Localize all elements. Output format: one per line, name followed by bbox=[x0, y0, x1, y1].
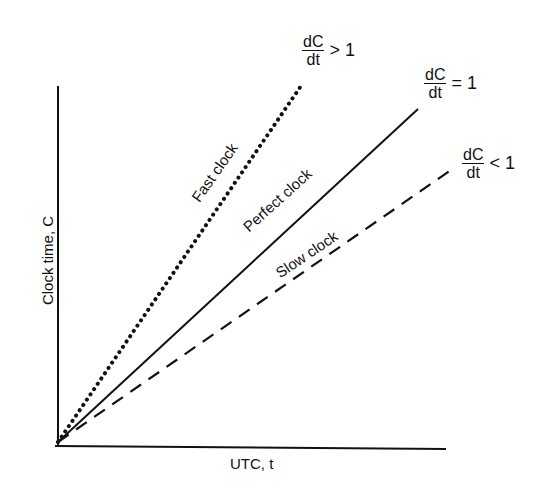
slow-slope-annotation: dCdt < 1 bbox=[462, 146, 515, 181]
perfect-slope-rel: = 1 bbox=[451, 73, 477, 94]
perfect-slope-annotation: dCdt = 1 bbox=[424, 66, 477, 101]
fast-clock-line bbox=[58, 83, 303, 442]
perfect-slope-num: dC bbox=[424, 66, 446, 84]
fast-slope-rel: > 1 bbox=[329, 40, 355, 61]
fast-slope-den: dt bbox=[307, 51, 320, 68]
x-axis bbox=[55, 446, 446, 449]
fast-slope-num: dC bbox=[302, 33, 324, 51]
y-axis-label: Clock time, C bbox=[39, 196, 56, 326]
slow-slope-num: dC bbox=[462, 146, 484, 164]
x-axis-label: UTC, t bbox=[230, 455, 273, 472]
slow-slope-rel: < 1 bbox=[489, 153, 515, 174]
perfect-slope-den: dt bbox=[429, 84, 442, 101]
slow-slope-den: dt bbox=[467, 164, 480, 181]
fast-slope-annotation: dCdt > 1 bbox=[302, 33, 355, 68]
perfect-clock-line bbox=[58, 109, 418, 442]
